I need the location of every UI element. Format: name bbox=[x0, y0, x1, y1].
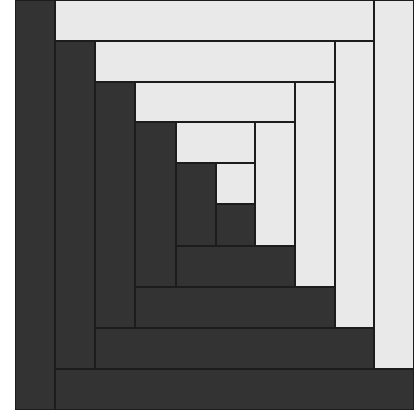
strip-ring3-bottom bbox=[135, 287, 335, 328]
log-cabin-quilt-block bbox=[0, 0, 419, 418]
strip-ring3-left bbox=[95, 82, 135, 328]
strip-ring4-top bbox=[95, 41, 335, 82]
strip-ring2-right bbox=[255, 122, 295, 246]
strip-ring2-bottom bbox=[176, 246, 295, 287]
strip-ring5-bottom bbox=[55, 369, 414, 410]
strip-center bbox=[216, 204, 255, 246]
strip-ring2-left bbox=[135, 122, 176, 287]
strip-ring5-left bbox=[15, 0, 55, 410]
strip-ring4-left bbox=[55, 41, 95, 369]
strip-ring4-right bbox=[335, 41, 374, 328]
strip-ring2-top bbox=[176, 122, 255, 163]
strip-ring1-top bbox=[216, 163, 255, 204]
strip-ring4-bottom bbox=[95, 328, 374, 369]
strip-ring5-right bbox=[374, 0, 414, 369]
strip-ring3-top bbox=[135, 82, 295, 122]
strip-ring1-left bbox=[176, 163, 216, 246]
strip-ring3-right bbox=[295, 82, 335, 287]
strip-ring5-top bbox=[55, 0, 374, 41]
